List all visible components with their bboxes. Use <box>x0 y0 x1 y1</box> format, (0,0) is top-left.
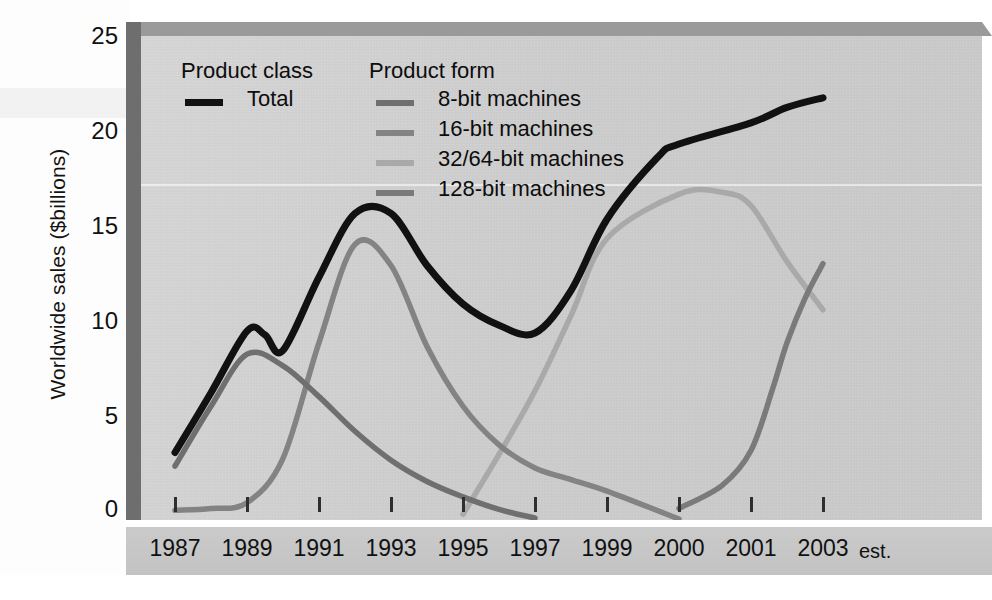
x-tick-mark-1991 <box>318 497 321 512</box>
series-line-16-bit-machines <box>175 240 679 519</box>
x-tick-mark-1995 <box>462 497 465 512</box>
x-tick-mark-1993 <box>390 497 393 512</box>
y-tick-label-15: 15 <box>62 212 118 240</box>
x-tick-label-1997: 1997 <box>502 535 568 562</box>
x-tick-label-1989: 1989 <box>214 535 280 562</box>
x-tick-label-1993: 1993 <box>358 535 424 562</box>
x-tick-label-2000: 2000 <box>646 535 712 562</box>
x-tick-label-1987: 1987 <box>142 535 208 562</box>
x-tick-label-1991: 1991 <box>286 535 352 562</box>
x-tick-mark-1987 <box>174 497 177 512</box>
chart-frame-top-bevel <box>126 22 982 36</box>
x-axis-estimate-note: est. <box>859 540 891 563</box>
x-tick-label-1999: 1999 <box>574 535 640 562</box>
x-tick-mark-2001 <box>750 497 753 512</box>
axis-separator <box>126 520 992 527</box>
y-tick-label-0: 0 <box>62 495 118 523</box>
x-tick-label-1995: 1995 <box>430 535 496 562</box>
series-line-8-bit-machines <box>175 352 535 518</box>
y-tick-label-25: 25 <box>62 22 118 50</box>
page-margin-bottom <box>0 575 984 600</box>
x-tick-mark-1989 <box>246 497 249 512</box>
y-tick-label-5: 5 <box>62 402 118 430</box>
x-tick-mark-1997 <box>534 497 537 512</box>
x-tick-label-2001: 2001 <box>718 535 784 562</box>
chart-frame-left-bevel <box>126 22 141 520</box>
series-line-128-bit-machines <box>679 264 823 509</box>
series-line-total <box>175 98 823 453</box>
y-tick-label-10: 10 <box>62 307 118 335</box>
x-tick-mark-1999 <box>606 497 609 512</box>
series-curves <box>141 36 982 520</box>
x-tick-mark-2003 <box>822 497 825 512</box>
plot-area: Product class Total Product form 8-bit m… <box>141 36 982 520</box>
series-line-32-64-bit-machines <box>463 190 823 515</box>
page-margin-top <box>0 0 984 22</box>
x-tick-mark-2000 <box>678 497 681 512</box>
y-tick-label-20: 20 <box>62 117 118 145</box>
x-tick-label-2003: 2003 <box>790 535 856 562</box>
